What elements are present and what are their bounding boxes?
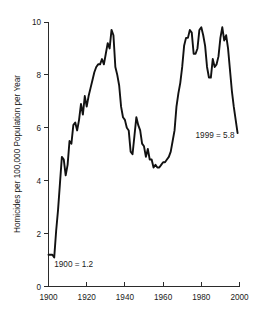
y-tick-label: 8	[36, 71, 41, 80]
y-axis-title: Homicides per 100,000 Population per Yea…	[13, 75, 22, 233]
chart-axes	[49, 22, 241, 287]
x-tick-label: 1980	[192, 293, 211, 302]
x-tick-label: 1920	[78, 293, 97, 302]
y-tick-label: 6	[36, 124, 41, 133]
y-tick-label: 2	[36, 230, 41, 239]
x-tick-label: 1900	[39, 293, 58, 302]
x-axis-ticks: 190019201940196019802000	[39, 282, 249, 302]
y-axis-ticks: 0246810	[32, 18, 49, 292]
homicide-rate-chart: 0246810 190019201940196019802000 1900 = …	[0, 0, 260, 323]
x-tick-label: 2000	[230, 293, 249, 302]
chart-canvas: 0246810 190019201940196019802000 1900 = …	[0, 0, 260, 323]
y-tick-label: 0	[36, 283, 41, 292]
data-curve	[49, 27, 238, 257]
x-tick-label: 1960	[154, 293, 173, 302]
y-tick-label: 4	[36, 177, 41, 186]
chart-series	[49, 27, 238, 257]
chart-annotation-label: 1900 = 1.2	[54, 260, 93, 269]
chart-annotation-label: 1999 = 5.8	[196, 131, 235, 140]
x-tick-label: 1940	[116, 293, 135, 302]
y-tick-label: 10	[32, 18, 42, 27]
